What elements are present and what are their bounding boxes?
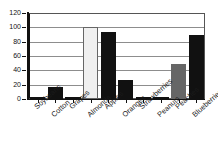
x-tick-label-grapes: Grapes: [68, 89, 91, 111]
x-tick-mark-strawberries: [143, 100, 144, 103]
x-axis-labels: SoybeansCottonGrapesAlmondsApplesOranges…: [0, 0, 218, 148]
x-tick-mark-peanuts: [161, 100, 162, 103]
x-tick-mark-grapes: [73, 100, 74, 103]
x-tick-mark-almonds: [91, 100, 92, 103]
x-tick-mark-blueberries: [196, 100, 197, 103]
x-tick-mark-soybeans: [38, 100, 39, 103]
x-tick-mark-cotton: [55, 100, 56, 103]
x-tick-mark-apples: [108, 100, 109, 103]
bar-chart: . 120100806040200 SoybeansCottonGrapesAl…: [0, 0, 218, 148]
x-tick-mark-oranges: [126, 100, 127, 103]
x-tick-mark-peaches: [179, 100, 180, 103]
